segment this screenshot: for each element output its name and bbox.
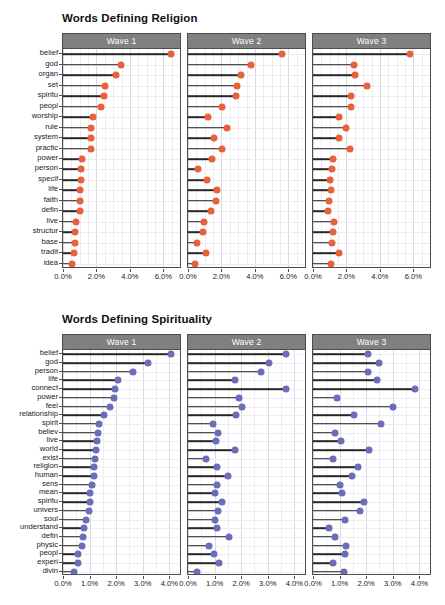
figure-lollipop-charts: Words Defining Religion beliefgodorganse… [0, 0, 445, 605]
data-point [88, 481, 95, 488]
data-point [348, 473, 355, 480]
data-point [106, 403, 113, 410]
plot-area [62, 48, 181, 268]
data-point [376, 360, 383, 367]
data-point [206, 542, 213, 549]
lollipop-stem [63, 362, 148, 364]
data-point [91, 464, 98, 471]
data-point [351, 72, 358, 79]
lollipop-stem [188, 95, 236, 97]
lollipop-stem [188, 475, 228, 477]
lollipop-stem [63, 95, 104, 97]
y-axis-tick-label: live [47, 217, 58, 225]
y-axis-tick-label: spirit [42, 419, 58, 427]
data-point [195, 166, 202, 173]
y-axis-tick-label: defin [42, 207, 58, 215]
gridline-minor-vertical [88, 49, 89, 267]
data-point [234, 82, 241, 89]
lollipop-stem [188, 414, 236, 416]
y-axis-tick-label: structur [33, 228, 58, 236]
data-point [75, 551, 82, 558]
data-point [203, 455, 210, 462]
data-point [232, 446, 239, 453]
x-axis-tick-label: 4.0% [246, 273, 263, 281]
data-point [357, 507, 364, 514]
y-axis-labels-religion: beliefgodorgansetspiritupeoplworshiprule… [0, 48, 58, 268]
y-axis-tick-label: univers [34, 506, 58, 514]
data-point [406, 51, 413, 58]
data-point [77, 176, 84, 183]
lollipop-stem [63, 388, 115, 390]
data-point [364, 82, 371, 89]
lollipop-stem [313, 362, 379, 364]
data-point [86, 499, 93, 506]
gridline-minor-vertical [156, 350, 157, 574]
gridline-minor-vertical [280, 49, 281, 267]
data-point [336, 481, 343, 488]
x-axis-tick-label: 0.0% [54, 580, 71, 588]
y-axis-tick-label: life [48, 376, 58, 384]
data-point [343, 542, 350, 549]
y-axis-tick-label: live [47, 436, 58, 444]
data-point [76, 208, 83, 215]
y-axis-tick-label: organ [39, 70, 58, 78]
data-point [219, 103, 226, 110]
lollipop-stem [313, 467, 358, 469]
x-axis-tick-label: 1.0% [81, 580, 98, 588]
x-axis-tick-label: 4.0% [371, 273, 388, 281]
facet-panel: Wave 3 [312, 334, 431, 575]
data-point [338, 490, 345, 497]
lollipop-stem [63, 380, 118, 382]
y-axis-tick-label: peopl [39, 102, 58, 110]
x-axis-tick-label: 2.0% [358, 580, 375, 588]
y-axis-tick-label: system [34, 133, 58, 141]
lollipop-stem [188, 536, 229, 538]
y-axis-tick-label: believ [38, 428, 58, 436]
gridline-major-vertical [143, 350, 144, 574]
data-point [329, 239, 336, 246]
data-point [212, 197, 219, 204]
data-point [329, 455, 336, 462]
data-point [90, 114, 97, 121]
gridline-major-vertical [313, 350, 314, 574]
y-axis-tick-label: tradit [41, 248, 58, 256]
lollipop-stem [188, 127, 227, 129]
gridline-minor-vertical [147, 49, 148, 267]
x-axis-tick-label: 0.0% [179, 580, 196, 588]
gridline-minor-vertical [228, 350, 229, 574]
data-point [237, 72, 244, 79]
lollipop-stem [313, 148, 350, 150]
data-point [117, 61, 124, 68]
gridline-minor-vertical [305, 49, 306, 267]
lollipop-stem [63, 371, 133, 373]
data-point [337, 438, 344, 445]
gridline-major-vertical [419, 350, 420, 574]
x-axis-tick-label: 2.0% [233, 580, 250, 588]
lollipop-stem [63, 53, 171, 55]
lollipop-stem [63, 467, 94, 469]
data-point [389, 403, 396, 410]
data-point [226, 533, 233, 540]
lollipop-stem [313, 380, 377, 382]
data-point [95, 420, 102, 427]
gridline-minor-vertical [297, 49, 298, 267]
plot-area [312, 349, 431, 575]
data-point [335, 114, 342, 121]
x-axis-tick-label: 0.0% [179, 273, 196, 281]
data-point [342, 551, 349, 558]
data-point [98, 103, 105, 110]
data-point [329, 559, 336, 566]
plot-area [187, 349, 306, 575]
facet-strip-label: Wave 1 [107, 37, 137, 46]
data-point [213, 525, 220, 532]
x-axis-tick-label: 6.0% [155, 273, 172, 281]
facet-strip-label: Wave 1 [107, 338, 137, 347]
lollipop-stem [188, 85, 237, 87]
y-axis-tick-label: peopl [39, 549, 58, 557]
data-point [71, 250, 78, 257]
plot-area [62, 349, 181, 575]
data-point [225, 473, 232, 480]
data-point [87, 124, 94, 131]
y-axis-tick-label: defin [42, 532, 58, 540]
x-axis-tick-label: 3.0% [134, 580, 151, 588]
